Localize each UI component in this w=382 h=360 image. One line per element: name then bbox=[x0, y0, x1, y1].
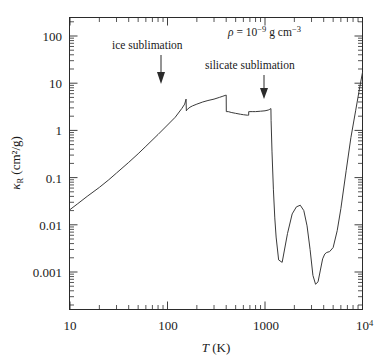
y-ticklabel-1: 1 bbox=[56, 123, 63, 138]
density-annotation: ρ = 10−9 g cm−3 bbox=[227, 24, 301, 39]
figure-container: 10 100 1000 104 100 10 1 0.1 0.01 0.001 … bbox=[0, 0, 382, 360]
x-ticklabel-10000: 104 bbox=[356, 318, 374, 333]
y-ticklabel-0.001: 0.001 bbox=[33, 265, 62, 280]
opacity-curve bbox=[70, 72, 363, 284]
x-ticklabel-10: 10 bbox=[64, 318, 77, 333]
ice-arrow-head bbox=[157, 72, 165, 84]
x-ticklabel-1000: 1000 bbox=[253, 318, 279, 333]
silicate-sublimation-arrow bbox=[260, 75, 268, 99]
x-axis-tick-labels: 10 100 1000 104 bbox=[64, 318, 375, 333]
plot-svg: 10 100 1000 104 100 10 1 0.1 0.01 0.001 … bbox=[0, 0, 382, 360]
ice-sublimation-label: ice sublimation bbox=[112, 39, 183, 51]
x-ticklabel-100: 100 bbox=[158, 318, 178, 333]
ice-sublimation-arrow bbox=[157, 55, 165, 84]
silicate-arrow-head bbox=[260, 88, 268, 99]
y-ticklabel-0.01: 0.01 bbox=[39, 218, 62, 233]
y-ticklabel-100: 100 bbox=[43, 29, 63, 44]
silicate-sublimation-label: silicate sublimation bbox=[205, 59, 295, 71]
y-axis-tick-labels: 100 10 1 0.1 0.01 0.001 bbox=[33, 29, 62, 280]
y-axis-label: κR (cm²/g) bbox=[8, 136, 25, 190]
y-ticklabel-0.1: 0.1 bbox=[46, 171, 62, 186]
y-ticklabel-10: 10 bbox=[49, 76, 62, 91]
x-axis-label: T (K) bbox=[202, 340, 231, 355]
